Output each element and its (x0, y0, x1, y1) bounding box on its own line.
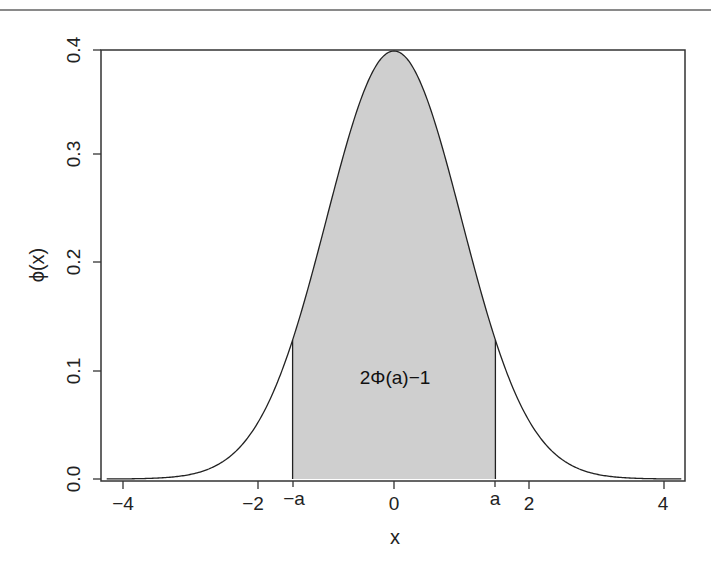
x-tick-label: 4 (658, 493, 669, 514)
y-tick-label: 0.4 (63, 36, 84, 63)
x-tick-label: −2 (242, 493, 264, 514)
neg-a-label: −a (283, 488, 305, 509)
y-tick-label: 0.2 (63, 249, 84, 275)
y-axis: 0.0 0.1 0.2 0.3 0.4 ϕ(x) (26, 36, 101, 492)
y-tick-label: 0.0 (63, 466, 84, 492)
y-axis-title: ϕ(x) (26, 248, 48, 283)
x-tick-label: 2 (524, 493, 535, 514)
x-tick-label: −4 (112, 493, 134, 514)
normal-density-chart: −4 −2 0 2 4 −a a x 0.0 0.1 0.2 0.3 0.4 ϕ… (0, 0, 711, 575)
shaded-area-2Phi-a-minus-1 (293, 51, 496, 479)
x-tick-label: 0 (389, 493, 400, 514)
x-axis: −4 −2 0 2 4 −a a x (112, 481, 669, 548)
y-tick-label: 0.1 (63, 358, 84, 384)
x-axis-title: x (390, 526, 400, 548)
y-tick-label: 0.3 (63, 141, 84, 167)
area-annotation: 2Φ(a)−1 (360, 367, 431, 388)
pos-a-label: a (490, 488, 501, 509)
